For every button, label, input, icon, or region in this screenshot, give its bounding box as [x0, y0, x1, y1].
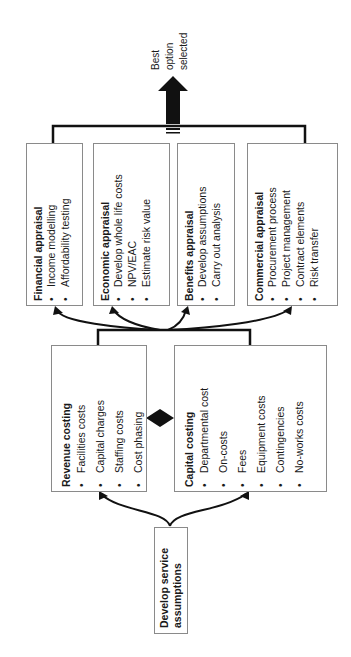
- label-line: Best: [150, 50, 162, 70]
- list-item: •Income modelling: [44, 198, 58, 301]
- list-item: •No-works costs: [290, 388, 309, 487]
- box-title: Economic appraisal: [99, 174, 111, 301]
- list-item: •NPV/EAC: [125, 174, 139, 301]
- list-item: •Develop whole life costs: [111, 174, 125, 301]
- label-line: selected: [178, 33, 190, 70]
- commercial-appraisal-box: Commercial appraisal •Procurement proces…: [247, 143, 338, 306]
- list-item: •Risk transfer: [307, 187, 321, 301]
- revenue-costing-box: Revenue costing •Facilities costs •Capit…: [51, 345, 147, 492]
- list-item: •Project management: [279, 187, 293, 301]
- box-title: Financial appraisal: [32, 198, 44, 301]
- list-item: •Staffing costs: [110, 400, 129, 487]
- list-item: •Capital charges: [91, 400, 110, 487]
- list-item: •Procurement process: [265, 187, 279, 301]
- box-title: Benefits appraisal: [183, 187, 195, 301]
- list-item: •Develop assumptions: [195, 187, 209, 301]
- box-title-line: assumptions: [171, 548, 184, 628]
- list-item: •Estimate risk value: [139, 174, 153, 301]
- best-option-arrow-icon: [158, 76, 188, 124]
- financial-appraisal-box: Financial appraisal •Income modelling •A…: [26, 143, 83, 306]
- costing-bracket: [98, 330, 250, 345]
- develop-service-assumptions-box: Develop service assumptions: [154, 527, 188, 634]
- list-item: •On-costs: [214, 388, 233, 487]
- box-title: Capital costing: [183, 388, 195, 487]
- label-line: option: [164, 43, 176, 70]
- capital-costing-box: Capital costing •Departmental cost •On-c…: [174, 345, 327, 492]
- list-item: •Contingencies: [271, 388, 290, 487]
- list-item: •Equipment costs: [252, 388, 271, 487]
- list-item: •Cost phasing: [129, 400, 148, 487]
- economic-appraisal-box: Economic appraisal •Develop whole life c…: [93, 143, 170, 306]
- diamond-icon: [146, 409, 174, 427]
- list-item: •Contract elements: [293, 187, 307, 301]
- list-item: •Fees: [233, 388, 252, 487]
- box-title: Commercial appraisal: [253, 187, 265, 301]
- box-title-line: Develop service: [158, 548, 171, 628]
- list-item: •Departmental cost: [195, 388, 214, 487]
- benefits-appraisal-box: Benefits appraisal •Develop assumptions …: [177, 143, 235, 306]
- list-item: •Facilities costs: [72, 400, 91, 487]
- list-item: •Carry out analysis: [209, 187, 223, 301]
- box-title: Revenue costing: [60, 400, 72, 487]
- list-item: •Affordability testing: [58, 198, 72, 301]
